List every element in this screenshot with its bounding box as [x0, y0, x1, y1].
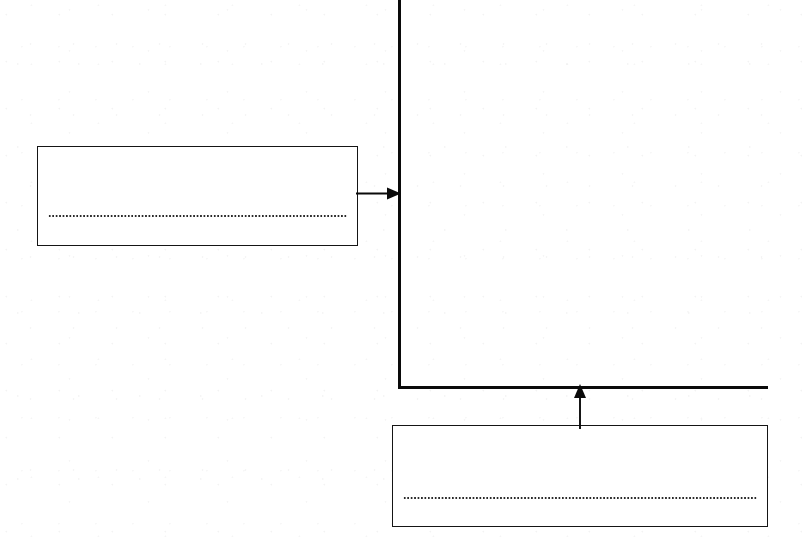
- callout-lower-right-dotted-rule: [403, 497, 757, 499]
- callout-upper-left-dotted-rule: [48, 215, 347, 217]
- connector-arrow-up-icon: [567, 383, 593, 429]
- callout-box-lower-right[interactable]: [392, 425, 768, 527]
- callout-box-upper-left[interactable]: [37, 146, 358, 246]
- diagram-canvas: [0, 0, 802, 540]
- connector-arrow-right-icon: [356, 181, 402, 207]
